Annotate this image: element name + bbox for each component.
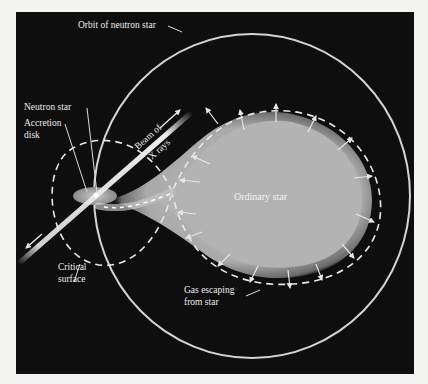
neutron-star [94,193,99,198]
ordinary-star-label: Ordinary star [234,191,288,202]
accretion-disk-label-line1: Accretion [24,118,62,128]
gas-escaping-label-line1: Gas escaping [184,285,235,295]
critical-surface-label-line2: surface [58,274,85,284]
gas-escaping-label-line2: from star [184,297,219,307]
neutron-star-label: Neutron star [24,102,72,112]
binary-xray-diagram: Orbit of neutron star Neutron star Accre… [0,0,428,384]
diagram-canvas: Orbit of neutron star Neutron star Accre… [0,0,428,384]
critical-surface-label-line1: Critical [58,262,87,272]
accretion-disk-label-line2: disk [24,130,40,140]
orbit-label: Orbit of neutron star [78,20,157,30]
